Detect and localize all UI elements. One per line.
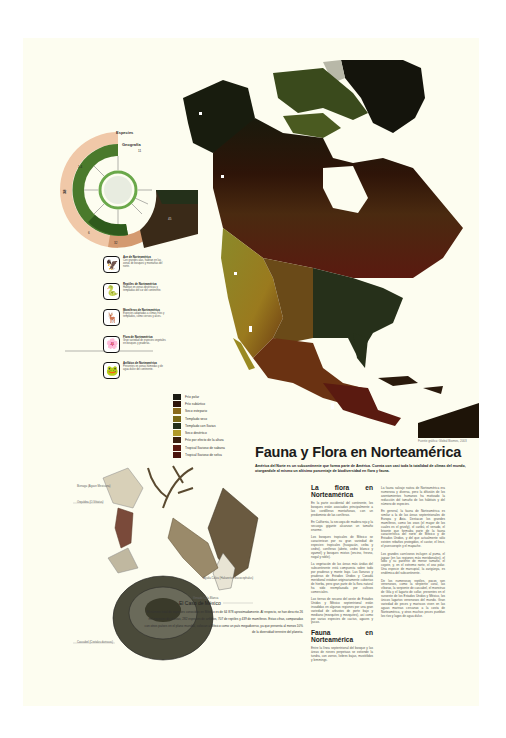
flora-paragraph: En la parte occidental del continente, l… <box>311 502 373 518</box>
wheel-label-species: Especies <box>116 130 133 135</box>
fauna-paragraph: La fauna salvaje nativa de Norteamérica … <box>381 487 445 507</box>
deer-icon: 🦌 <box>103 309 120 326</box>
poster-intro: América del Norte es un subcontinente qu… <box>255 464 477 473</box>
label-flower-1: Biznaga (Agave Mexicana) <box>77 484 110 488</box>
mexico-case-heading: El Caso de México <box>179 600 303 606</box>
snake-icon: 🐍 <box>103 283 120 300</box>
mexico-case-text: El número total de especies conocidas en… <box>143 609 303 636</box>
species-item: 🦅 Ave de NorteaméricaCon grandes alas, h… <box>103 256 203 283</box>
fauna-paragraph: Entre la línea septentrional del bosque … <box>311 647 373 663</box>
mexico-case-section: El Caso de México El número total de esp… <box>143 600 303 636</box>
fauna-paragraph: Los grandes carnívoros incluyen al puma,… <box>381 553 445 576</box>
species-desc: Especies adaptadas a climas fríos y temp… <box>123 312 164 318</box>
species-desc: Gran variedad de especies vegetales en b… <box>123 339 166 345</box>
poster-title: Fauna y Flora en Norteamérica <box>255 444 461 460</box>
flower-icon: 🌸 <box>103 336 120 353</box>
flora-paragraph: Las tierras de secano del oeste de Estad… <box>311 598 373 625</box>
eagle-icon: 🦅 <box>103 256 120 273</box>
wildlife-illustration: Biznaga (Agave Mexicana) Orquídea (O.Vit… <box>73 448 273 678</box>
species-desc: Habitan en zonas desérticas y templadas … <box>123 286 161 292</box>
poster: Fuente gráfica: Global Biomes, 2003 <box>23 38 479 706</box>
species-item: 🌸 Flora de NorteaméricaGran variedad de … <box>103 336 203 363</box>
species-item: 🐍 Reptiles de NorteaméricaHabitan en zon… <box>103 283 203 310</box>
fauna-paragraph: En general, la fauna de Norteamérica es … <box>381 510 445 549</box>
fauna-heading: Fauna en Norteamérica <box>311 629 373 643</box>
species-item: 🐸 Anfibios de NorteaméricaPresentes en z… <box>103 362 203 389</box>
legend-swatch <box>173 416 181 422</box>
legend-item: Templado con lluvias <box>173 422 225 429</box>
fauna-column: La fauna salvaje nativa de Norteamérica … <box>381 487 445 622</box>
legend-swatch <box>173 430 181 436</box>
legend-item: Seco desértico <box>173 429 225 436</box>
label-flower-2: Orquídea (O.Vittatus) <box>77 500 104 504</box>
legend-swatch <box>173 437 181 443</box>
svg-text:32: 32 <box>114 241 118 245</box>
svg-text:38: 38 <box>62 189 67 194</box>
svg-text:11: 11 <box>138 149 141 153</box>
flora-paragraph: Los bosques tropicales de México se cara… <box>311 536 373 559</box>
frog-icon: 🐸 <box>103 362 120 379</box>
fauna-paragraph: De los numerosos reptiles, pocos son ven… <box>381 580 445 619</box>
species-desc: Con grandes alas, habitan en las zonas d… <box>123 259 162 268</box>
flora-paragraph: La vegetación de las áreas más áridas de… <box>311 563 373 594</box>
svg-text:1.4: 1.4 <box>78 165 83 169</box>
species-geography-wheel-chart: 38 1.4 32 6 11 45 Especies Geografía <box>58 128 198 248</box>
label-eagle: Águila Calva (Haliaeetus leucocephalus) <box>203 576 253 580</box>
species-list: 🦅 Ave de NorteaméricaCon grandes alas, h… <box>103 256 203 389</box>
legend-item: Frío por efecto de la altura <box>173 437 225 444</box>
species-desc: Presentes en zonas húmedas y de agua dul… <box>123 365 163 371</box>
species-item: 🦌 Mamíferos de NorteaméricaEspecies adap… <box>103 309 203 336</box>
legend-swatch <box>173 394 181 400</box>
flora-column: La flora en Norteamérica En la parte occ… <box>311 484 373 666</box>
wheel-label-geography: Geografía <box>122 142 141 147</box>
legend-item: Frío subártico <box>173 400 225 407</box>
map-credit: Fuente gráfica: Global Biomes, 2003 <box>418 439 467 443</box>
legend-swatch <box>173 401 181 407</box>
legend-item: Frío polar <box>173 393 225 400</box>
legend-swatch <box>173 408 181 414</box>
legend-swatch <box>173 423 181 429</box>
flora-heading: La flora en Norteamérica <box>311 484 373 498</box>
flora-paragraph: En California, la secuoya de madera roja… <box>311 521 373 533</box>
legend-item: Templado seco <box>173 415 225 422</box>
label-snake: Cascabel (Crotalus durissus) <box>77 640 113 644</box>
legend-item: Seco estepario <box>173 408 225 415</box>
svg-text:45: 45 <box>168 217 172 221</box>
